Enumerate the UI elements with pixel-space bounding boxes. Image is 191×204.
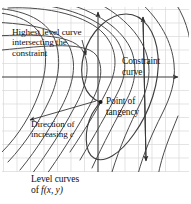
caption-line2-prefix: of xyxy=(31,184,41,195)
label-constraint-line1: Constraint xyxy=(122,56,160,67)
figure-caption: Level curves of f(x, y) xyxy=(31,174,79,195)
label-highest-line2: intersecting the xyxy=(12,37,82,47)
label-highest-line3: constraint xyxy=(12,48,82,58)
label-tangency-line1: Point of xyxy=(106,96,139,107)
label-direction-of-increasing-c: Direction of increasing c xyxy=(31,119,74,140)
level-curve xyxy=(158,116,178,176)
tangency-point-marker xyxy=(98,100,102,104)
label-tangency-line2: tangency xyxy=(106,107,139,118)
label-direction-line2-prefix: increasing xyxy=(31,129,70,139)
label-constraint-curve: Constraint curve xyxy=(122,56,160,77)
label-direction-variable-c: c xyxy=(70,129,74,139)
caption-function-expression: f(x, y) xyxy=(41,184,63,195)
label-direction-line2: increasing c xyxy=(31,129,74,139)
label-direction-line1: Direction of xyxy=(31,119,74,129)
label-constraint-line2: curve xyxy=(122,67,160,78)
lagrange-diagram-figure: Highest level curve intersecting the con… xyxy=(0,0,191,204)
caption-line2: of f(x, y) xyxy=(31,185,79,196)
level-curve xyxy=(176,4,191,64)
label-point-of-tangency: Point of tangency xyxy=(106,96,139,117)
label-highest-level-curve: Highest level curve intersecting the con… xyxy=(12,27,82,58)
label-highest-line1: Highest level curve xyxy=(12,27,82,37)
